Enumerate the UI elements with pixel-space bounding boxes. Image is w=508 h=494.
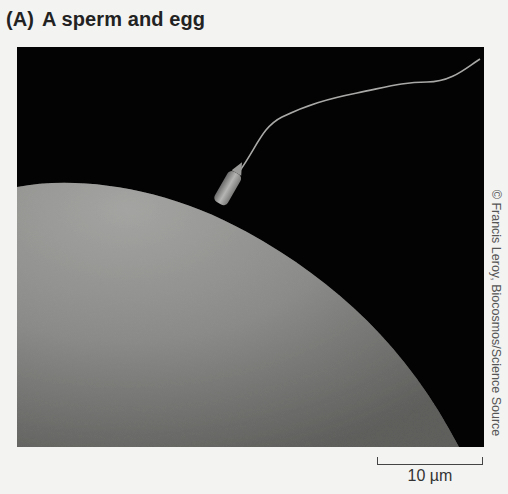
panel-label: (A) (6, 8, 34, 30)
micrograph-image (17, 47, 484, 447)
egg-cell (17, 183, 459, 447)
figure-title-text: A sperm and egg (42, 8, 205, 30)
scale-bar-label: 10 µm (377, 467, 483, 485)
photo-credit-text: © Francis Leroy, Biocosmos/Science Sourc… (489, 190, 503, 437)
figure-title: (A)A sperm and egg (6, 8, 205, 31)
photo-credit: © Francis Leroy, Biocosmos/Science Sourc… (486, 178, 506, 448)
scale-bar (377, 457, 483, 465)
sperm-tail (239, 59, 480, 172)
